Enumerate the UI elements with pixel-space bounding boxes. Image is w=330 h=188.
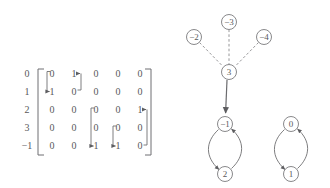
matrix-cell-r4c1: 0 [72,140,77,151]
graph-node-minus1[interactable]: −1 [218,117,233,132]
matrix-cell-r4c0: 0 [50,140,55,151]
node-label-3: 3 [227,67,232,77]
graph-node-2[interactable]: 2 [218,167,233,182]
matrix-cell-r3c1: 0 [72,122,77,133]
matrix-cell-r0c2: 0 [94,68,99,79]
graph-node-minus2[interactable]: −2 [187,30,202,45]
matrix-row-label-2: 2 [25,104,30,115]
matrix-cell-r1c3: 0 [116,86,121,97]
node-label-minus3: −3 [224,17,234,27]
matrix-cell-r3c2: 0 [94,122,99,133]
matrix-cell-r2c0: 0 [50,104,55,115]
graph-node-0[interactable]: 0 [284,117,299,132]
matrix-row-label-0: 0 [25,68,30,79]
matrix-cell-r2c2: 0 [94,104,99,115]
figure-canvas: 0 1 2 3 −1 0 1 0 0 0 1 0 0 0 0 0 0 0 0 1 [0,0,330,188]
matrix-cell-r0c4: 0 [138,68,143,79]
node-label-minus4: −4 [259,32,269,42]
matrix-cell-r3c3: 0 [116,122,121,133]
matrix-cell-r1c2: 0 [94,86,99,97]
matrix-cell-r1c1: 0 [72,86,77,97]
matrix-cell-r2c1: 0 [72,104,77,115]
graph-node-3[interactable]: 3 [222,65,237,80]
matrix-row-label-1: 1 [25,86,30,97]
node-label-0: 0 [289,119,294,129]
node-label-1: 1 [289,169,294,179]
matrix-cell-r4c3: 1 [116,140,121,151]
matrix-cell-r3c0: 0 [50,122,55,133]
matrix-cell-r4c2: 1 [94,140,99,151]
graph-node-minus4[interactable]: −4 [257,30,272,45]
figure-container: 0 1 2 3 −1 0 1 0 0 0 1 0 0 0 0 0 0 0 0 1 [0,0,330,188]
matrix-cell-r2c3: 0 [116,104,121,115]
matrix-cell-r3c4: 0 [138,122,143,133]
matrix-cell-r0c1: 1 [72,68,77,79]
matrix-row-label-4: −1 [22,140,33,151]
node-label-minus1: −1 [220,119,230,129]
matrix-cell-r0c0: 0 [50,68,55,79]
matrix-row-label-3: 3 [25,122,30,133]
matrix-cell-r0c3: 0 [116,68,121,79]
matrix-cell-r1c4: 0 [138,86,143,97]
graph-node-minus3[interactable]: −3 [222,15,237,30]
graph-node-1[interactable]: 1 [284,167,299,182]
node-label-2: 2 [223,169,228,179]
matrix-cell-r1c0: 1 [50,86,55,97]
node-label-minus2: −2 [189,32,199,42]
matrix-cell-r4c4: 0 [138,140,143,151]
matrix-cell-r2c4: 1 [138,104,143,115]
